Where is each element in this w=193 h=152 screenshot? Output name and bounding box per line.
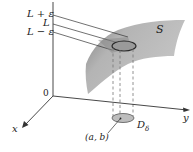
x-axis [25, 96, 53, 125]
disk-d-delta [112, 114, 134, 123]
label-disk-delta: δ [145, 125, 149, 133]
point-pointer [108, 119, 120, 133]
label-origin: 0 [43, 89, 49, 98]
label-disk-d: D [137, 119, 145, 130]
limit-diagram: L + ε L L − ε S 0 x y (a, b) Dδ [0, 0, 193, 152]
label-surface-s: S [156, 24, 164, 35]
surface-s [86, 20, 185, 94]
label-y-axis: y [183, 113, 189, 123]
l-plus-eps-line [53, 15, 128, 37]
diagram-canvas [0, 0, 193, 152]
label-point-ab: (a, b) [85, 133, 109, 142]
surface-ellipse [112, 41, 136, 51]
label-disk-d-delta: Dδ [137, 120, 149, 133]
point-ab-dot [120, 118, 122, 120]
label-x-axis: x [12, 124, 18, 134]
label-l-minus-eps: L − ε [27, 27, 54, 37]
